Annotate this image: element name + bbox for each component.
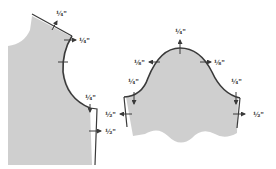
sleeve-left-seam — [124, 97, 127, 127]
label-shoulder: ¼" — [56, 9, 67, 18]
pattern-alteration-diagram: ¼" ¼" ¼" ½" ¼" ⅛" ⅛" ¼" ¼" ½" ½" — [0, 0, 276, 169]
label-cap-top: ¼" — [175, 27, 186, 36]
label-seam-right: ½" — [253, 110, 264, 119]
label-armhole-top: ¼" — [79, 36, 90, 45]
label-underarm: ¼" — [85, 93, 96, 102]
label-underarm-right: ¼" — [231, 77, 242, 86]
label-cap-left: ⅛" — [134, 58, 145, 67]
label-underarm-left: ¼" — [128, 77, 139, 86]
bodice-piece: ¼" ¼" ¼" ½" — [8, 9, 116, 165]
label-side-seam: ½" — [105, 127, 116, 136]
label-seam-left: ½" — [105, 110, 116, 119]
label-cap-right: ⅛" — [214, 58, 225, 67]
sleeve-piece: ¼" ⅛" ⅛" ¼" ¼" ½" ½" — [105, 27, 264, 143]
